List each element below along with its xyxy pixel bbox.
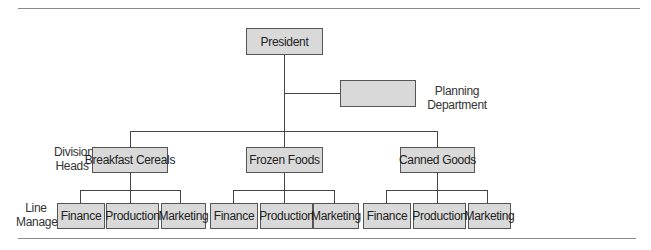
manager-label: Production — [105, 209, 159, 223]
manager-box-cg-marketing: Marketing — [468, 203, 511, 229]
division-label: Breakfast Cereals — [85, 153, 175, 167]
division-label: Canned Goods — [399, 153, 476, 167]
planning-caption-line1: Planning — [422, 84, 492, 98]
division-box-canned-goods: Canned Goods — [400, 147, 475, 173]
planning-department-caption: Planning Department — [422, 84, 492, 112]
connector-cg-2 — [437, 190, 438, 203]
line-managers-line1: Line — [16, 201, 56, 215]
manager-box-cg-finance: Finance — [363, 203, 411, 229]
planning-caption-line2: Department — [422, 98, 492, 112]
connector-bc-trunk — [130, 173, 131, 190]
manager-box-bc-production: Production — [106, 203, 159, 229]
division-box-breakfast-cereals: Breakfast Cereals — [92, 147, 168, 173]
connector-division-2 — [284, 131, 285, 147]
connector-cg-3 — [487, 190, 488, 203]
president-box: President — [246, 28, 323, 55]
connector-division-1 — [130, 131, 131, 147]
level-label-line-managers: Line Managers — [16, 201, 56, 229]
connector-ff-2 — [284, 190, 285, 203]
connector-bc-3 — [180, 190, 181, 203]
connector-division-3 — [437, 131, 438, 147]
line-managers-line2: Managers — [16, 215, 56, 229]
connector-planning — [284, 93, 340, 94]
connector-cg-1 — [386, 190, 387, 203]
connector-ff-1 — [233, 190, 234, 203]
manager-box-bc-marketing: Marketing — [161, 203, 206, 229]
manager-box-ff-marketing: Marketing — [313, 203, 359, 229]
manager-label: Production — [259, 209, 313, 223]
manager-label: Marketing — [465, 209, 515, 223]
manager-label: Finance — [367, 209, 408, 223]
manager-label: Production — [412, 209, 466, 223]
connector-bc-1 — [80, 190, 81, 203]
manager-label: Marketing — [159, 209, 209, 223]
bottom-rule — [18, 238, 636, 239]
manager-box-ff-production: Production — [260, 203, 313, 229]
manager-label: Finance — [61, 209, 102, 223]
division-label: Frozen Foods — [249, 153, 319, 167]
connector-ff-3 — [334, 190, 335, 203]
planning-department-box — [340, 80, 416, 107]
manager-box-ff-finance: Finance — [210, 203, 258, 229]
manager-label: Finance — [214, 209, 255, 223]
president-label: President — [261, 35, 309, 49]
manager-box-cg-production: Production — [413, 203, 466, 229]
top-rule — [18, 8, 640, 9]
connector-cg-trunk — [437, 173, 438, 190]
connector-ff-trunk — [284, 173, 285, 190]
manager-box-bc-finance: Finance — [57, 203, 105, 229]
manager-label: Marketing — [311, 209, 361, 223]
division-box-frozen-foods: Frozen Foods — [246, 147, 323, 173]
connector-bc-2 — [130, 190, 131, 203]
